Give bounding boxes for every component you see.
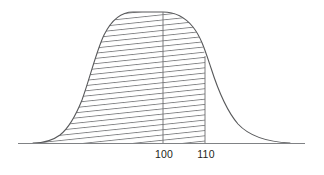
x-axis-tick-label-110: 110 [197,148,214,160]
normal-distribution-figure: 100 110 [0,0,324,175]
distribution-chart-svg: 100 110 [0,0,324,175]
x-axis-tick-label-100: 100 [155,148,173,160]
